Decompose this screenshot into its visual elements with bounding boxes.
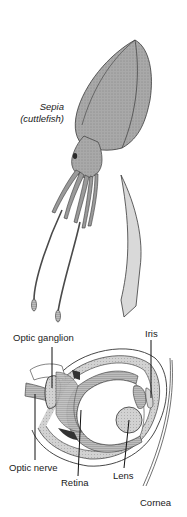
label-lens: Lens: [113, 470, 134, 481]
label-cornea: Cornea: [140, 497, 171, 508]
label-optic-ganglion: Optic ganglion: [13, 332, 74, 343]
sepia-illustration: [0, 0, 187, 517]
label-optic-nerve: Optic nerve: [9, 462, 58, 473]
organism-common-name-label: (cuttlefish): [10, 113, 64, 124]
organism-genus-label: Sepia: [34, 101, 64, 112]
tentacle-club: [32, 299, 37, 311]
label-retina: Retina: [61, 477, 88, 488]
cuttlebone: [121, 175, 141, 317]
tentacle-club: [56, 310, 61, 322]
label-iris: Iris: [145, 328, 158, 339]
